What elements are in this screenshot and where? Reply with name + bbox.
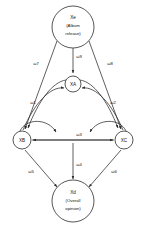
node-xe-label: Xe [70,15,76,20]
node-xb-label: XB [19,138,25,143]
edge-xb-to-xa [23,88,64,130]
edge-label-w1: ω1 [30,100,36,105]
node-xc-label: XC [121,138,128,143]
edge-group-xb-xc [20,121,126,140]
causal-diagram: Xe (Album release) XA XB XC Xd (Overall … [0,0,146,228]
node-xa-label: XA [70,82,77,87]
node-xe-sublabel-2: release) [65,31,81,36]
graph-canvas: Xe (Album release) XA XB XC Xd (Overall … [0,0,146,228]
node-xd-label: Xd [70,190,76,195]
edge-label-w4: ω4 [76,162,82,167]
node-xe[interactable]: Xe (Album release) [52,6,94,48]
node-xd-sublabel-1: (Overall [65,198,80,203]
node-xd-sublabel-2: opinion) [65,206,81,211]
edge-label-w2: ω2 [110,100,116,105]
node-xc[interactable]: XC [115,131,133,149]
edge-label-w6: ω6 [111,169,117,174]
edge-xc-curve-left [90,121,126,132]
edge-label-w9: ω9 [76,54,82,59]
edge-xb-curve-right [20,121,56,132]
node-xa[interactable]: XA [65,76,81,92]
edge-xc-to-xa [82,88,123,130]
edge-label-w8: ω8 [107,61,113,66]
edge-label-w3: ω3 [76,132,82,137]
node-xd[interactable]: Xd (Overall opinion) [52,180,94,222]
node-xb[interactable]: XB [13,131,31,149]
node-xe-sublabel-1: (Album [66,23,80,28]
edge-label-w7: ω7 [33,61,39,66]
edge-label-w5: ω5 [28,169,34,174]
